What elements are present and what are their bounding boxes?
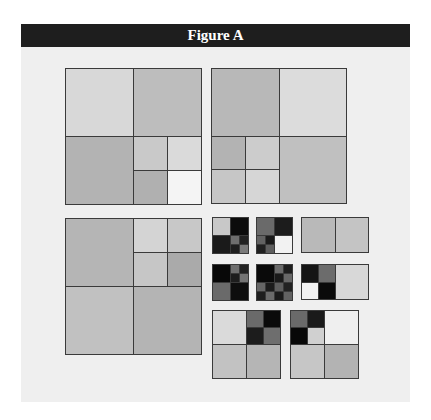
grid-cell <box>307 327 325 345</box>
grid-cell <box>318 264 336 283</box>
grid-cell <box>167 218 202 253</box>
grid-cell <box>283 291 293 301</box>
grid-cell <box>246 327 264 345</box>
figure-title: Figure A <box>21 24 410 47</box>
grid-cell <box>212 310 247 345</box>
quadtree-top-right <box>211 68 346 203</box>
grid-cell <box>212 344 247 379</box>
grid-cell <box>239 244 249 254</box>
grid-cell <box>212 235 231 254</box>
block-grid-2 <box>256 217 292 253</box>
grid-cell <box>274 235 293 254</box>
grid-cell <box>301 282 319 300</box>
bar-2 <box>301 264 368 299</box>
grid-cell <box>256 217 275 236</box>
grid-cell <box>263 310 281 328</box>
grid-cell <box>335 264 369 300</box>
grid-cell <box>212 282 231 301</box>
grid-cell <box>65 218 134 287</box>
grid-cell <box>133 136 168 171</box>
grid-cell <box>290 327 308 345</box>
quadtree-small-2 <box>290 310 358 378</box>
grid-cell <box>246 310 264 328</box>
grid-cell <box>211 169 246 204</box>
grid-cell <box>307 310 325 328</box>
grid-cell <box>245 136 280 170</box>
grid-cell <box>245 169 280 204</box>
grid-cell <box>290 344 325 379</box>
grid-cell <box>65 286 134 355</box>
bar-1 <box>301 217 368 252</box>
grid-cell <box>318 282 336 300</box>
grid-cell <box>65 136 134 205</box>
quadtree-small-1 <box>212 310 280 378</box>
grid-cell <box>324 310 359 345</box>
grid-cell <box>263 327 281 345</box>
grid-cell <box>256 264 275 283</box>
block-grid-4 <box>256 264 292 300</box>
grid-cell <box>133 218 168 253</box>
grid-cell <box>230 217 249 236</box>
quadtree-top-left <box>65 68 201 204</box>
grid-cell <box>133 252 168 287</box>
grid-cell <box>211 68 280 137</box>
grid-cell <box>133 170 168 205</box>
grid-cell <box>211 136 246 170</box>
grid-cell <box>274 217 293 236</box>
grid-cell <box>133 68 202 137</box>
grid-cell <box>133 286 202 355</box>
grid-cell <box>279 68 347 137</box>
quadtree-bottom-left <box>65 218 201 354</box>
grid-cell <box>290 310 308 328</box>
grid-cell <box>301 217 336 253</box>
grid-cell <box>212 217 231 236</box>
grid-cell <box>212 264 231 283</box>
grid-cell <box>324 344 359 379</box>
grid-cell <box>167 136 202 171</box>
grid-cell <box>167 170 202 205</box>
block-grid-1 <box>212 217 248 253</box>
grid-cell <box>230 282 249 301</box>
grid-cell <box>246 344 281 379</box>
grid-cell <box>279 136 347 204</box>
grid-cell <box>167 252 202 287</box>
block-grid-3 <box>212 264 248 300</box>
grid-cell <box>65 68 134 137</box>
grid-cell <box>335 217 369 253</box>
grid-cell <box>301 264 319 283</box>
